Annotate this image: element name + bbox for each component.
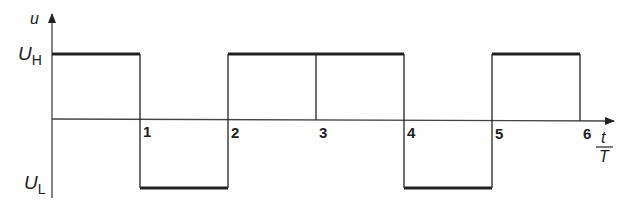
x-tick-label: 1	[143, 123, 151, 140]
x-tick-label: 3	[319, 124, 327, 141]
x-axis	[52, 119, 614, 121]
square-wave-diagram: 123456 u UH UL t T	[0, 0, 636, 205]
x-tick-label: 2	[231, 124, 239, 141]
x-tick-label: 5	[495, 125, 503, 142]
level-low-label: UL	[24, 172, 46, 197]
x-axis-label-denominator: T	[599, 148, 610, 165]
y-axis-label: u	[30, 10, 39, 27]
x-tick-label: 6	[583, 125, 591, 142]
x-tick-labels: 123456	[143, 123, 591, 142]
level-high-label: UH	[18, 43, 42, 68]
x-axis-label-numerator: t	[601, 129, 606, 146]
x-tick-label: 4	[407, 124, 416, 141]
